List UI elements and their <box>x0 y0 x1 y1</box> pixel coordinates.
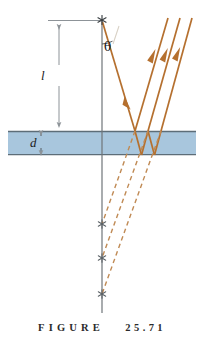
optics-ray-diagram <box>0 0 204 347</box>
emerging-ray-1 <box>135 18 168 131</box>
emerging-ray-2-arrowhead <box>160 48 168 63</box>
figure-caption-number: 25.71 <box>125 322 166 333</box>
emerging-ray-3 <box>161 18 192 131</box>
figure-caption-word: FIGURE <box>38 322 104 333</box>
figure-container: l d θ FIGURE 25.71 <box>0 0 204 347</box>
virtual-ray-extensions <box>102 131 161 294</box>
emerging-ray-3-arrowhead <box>172 47 180 62</box>
label-distance-l: l <box>41 69 45 82</box>
figure-caption: FIGURE 25.71 <box>0 322 204 333</box>
emerging-ray-1-arrowhead <box>147 49 155 64</box>
label-angle-theta: θ <box>104 41 111 53</box>
incident-ray-segment <box>103 22 136 131</box>
construction-hint-line <box>113 26 119 44</box>
incident-ray-arrowhead <box>123 97 131 110</box>
incident-ray <box>103 22 136 131</box>
virtual-image-asterisk <box>98 290 105 298</box>
label-thickness-d: d <box>30 136 37 149</box>
emerging-parallel-rays <box>135 18 192 131</box>
virtual-image-asterisk <box>98 254 105 262</box>
virtual-extension-3 <box>102 131 161 294</box>
virtual-image-asterisk <box>98 220 105 228</box>
emerging-ray-2 <box>148 18 180 131</box>
dimension-l-group <box>48 21 103 126</box>
